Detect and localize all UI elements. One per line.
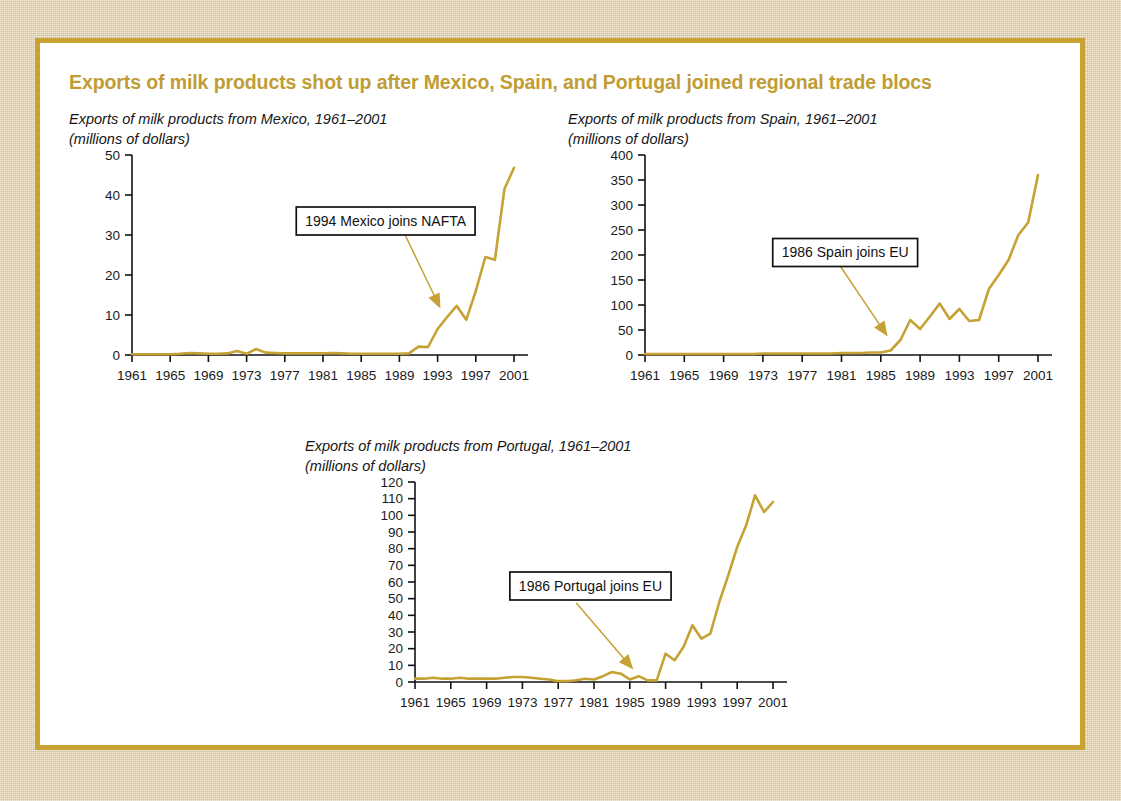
x-tick-label: 2001 xyxy=(499,368,529,383)
annotation-label: 1994 Mexico joins NAFTA xyxy=(305,213,466,229)
annotation-arrow-head xyxy=(619,654,633,669)
y-tick-label: 150 xyxy=(610,273,633,288)
y-tick-label: 30 xyxy=(105,228,120,243)
x-tick-label: 1989 xyxy=(384,368,414,383)
x-tick-label: 1989 xyxy=(905,368,935,383)
y-tick-label: 110 xyxy=(381,491,403,506)
x-tick-label: 2001 xyxy=(758,695,788,710)
y-tick-label: 20 xyxy=(105,268,120,283)
x-tick-label: 1997 xyxy=(461,368,491,383)
x-tick-label: 1981 xyxy=(308,368,338,383)
chart-portugal-title: Exports of milk products from Portugal, … xyxy=(305,438,631,454)
chart-mexico-subtitle: (millions of dollars) xyxy=(69,131,190,147)
x-tick-label: 1977 xyxy=(543,695,573,710)
chart-portugal-subtitle: (millions of dollars) xyxy=(305,458,426,474)
x-tick-label: 1977 xyxy=(787,368,817,383)
figure-panel: Exports of milk products shot up after M… xyxy=(35,38,1085,750)
x-tick-label: 1993 xyxy=(423,368,453,383)
y-tick-label: 50 xyxy=(618,323,633,338)
chart-mexico-plot: 0102030405019611965196919731977198119851… xyxy=(69,147,549,419)
y-tick-label: 10 xyxy=(388,658,403,673)
x-tick-label: 2001 xyxy=(1023,368,1053,383)
figure-title: Exports of milk products shot up after M… xyxy=(69,71,1059,94)
y-tick-label: 40 xyxy=(388,608,403,623)
x-tick-label: 1985 xyxy=(346,368,376,383)
y-tick-label: 300 xyxy=(610,198,633,213)
chart-portugal-caption: Exports of milk products from Portugal, … xyxy=(305,436,631,476)
x-tick-label: 1981 xyxy=(579,695,609,710)
x-tick-label: 1965 xyxy=(436,695,466,710)
x-tick-label: 1969 xyxy=(193,368,223,383)
annotation-arrow-shaft xyxy=(576,603,625,661)
chart-portugal-plot: 0102030405060708090100110120196119651969… xyxy=(305,474,805,746)
y-tick-label: 250 xyxy=(610,223,633,238)
x-tick-label: 1961 xyxy=(117,368,147,383)
y-tick-label: 0 xyxy=(395,675,403,690)
data-line xyxy=(132,168,514,354)
x-tick-label: 1973 xyxy=(232,368,262,383)
chart-spain-caption: Exports of milk products from Spain, 196… xyxy=(568,109,878,149)
chart-spain-plot: 0501001502002503003504001961196519691973… xyxy=(568,147,1058,419)
y-tick-label: 10 xyxy=(105,308,120,323)
y-tick-label: 0 xyxy=(625,348,633,363)
y-tick-label: 0 xyxy=(112,348,120,363)
y-tick-label: 60 xyxy=(388,575,403,590)
x-tick-label: 1969 xyxy=(472,695,502,710)
chart-mexico-title: Exports of milk products from Mexico, 19… xyxy=(69,111,387,127)
x-tick-label: 1969 xyxy=(709,368,739,383)
y-tick-label: 30 xyxy=(388,625,403,640)
y-tick-label: 50 xyxy=(388,591,403,606)
annotation-arrow-head xyxy=(874,321,888,337)
x-tick-label: 1977 xyxy=(270,368,300,383)
y-tick-label: 70 xyxy=(388,558,403,573)
chart-spain: Exports of milk products from Spain, 196… xyxy=(568,109,1058,419)
y-tick-label: 50 xyxy=(105,148,120,163)
x-tick-label: 1997 xyxy=(722,695,752,710)
y-tick-label: 400 xyxy=(610,148,633,163)
x-tick-label: 1961 xyxy=(630,368,660,383)
chart-mexico: Exports of milk products from Mexico, 19… xyxy=(69,109,549,419)
annotation-label: 1986 Portugal joins EU xyxy=(519,578,662,594)
x-tick-label: 1981 xyxy=(826,368,856,383)
annotation-label: 1986 Spain joins EU xyxy=(782,244,909,260)
x-tick-label: 1973 xyxy=(748,368,778,383)
chart-spain-subtitle: (millions of dollars) xyxy=(568,131,689,147)
x-tick-label: 1993 xyxy=(944,368,974,383)
x-tick-label: 1985 xyxy=(615,695,645,710)
x-tick-label: 1993 xyxy=(686,695,716,710)
y-tick-label: 100 xyxy=(610,298,633,313)
y-tick-label: 90 xyxy=(388,525,403,540)
annotation-arrow-shaft xyxy=(841,267,881,327)
y-tick-label: 350 xyxy=(610,173,633,188)
y-tick-label: 120 xyxy=(380,475,403,490)
x-tick-label: 1973 xyxy=(507,695,537,710)
x-tick-label: 1997 xyxy=(984,368,1014,383)
y-tick-label: 40 xyxy=(105,188,120,203)
annotation-arrow-shaft xyxy=(405,235,435,298)
x-tick-label: 1985 xyxy=(866,368,896,383)
x-tick-label: 1989 xyxy=(651,695,681,710)
y-tick-label: 100 xyxy=(380,508,403,523)
y-tick-label: 80 xyxy=(388,541,403,556)
chart-portugal: Exports of milk products from Portugal, … xyxy=(305,436,805,746)
x-tick-label: 1965 xyxy=(155,368,185,383)
chart-spain-title: Exports of milk products from Spain, 196… xyxy=(568,111,878,127)
y-tick-label: 20 xyxy=(388,641,403,656)
x-tick-label: 1961 xyxy=(400,695,430,710)
x-tick-label: 1965 xyxy=(669,368,699,383)
y-tick-label: 200 xyxy=(610,248,633,263)
chart-mexico-caption: Exports of milk products from Mexico, 19… xyxy=(69,109,387,149)
